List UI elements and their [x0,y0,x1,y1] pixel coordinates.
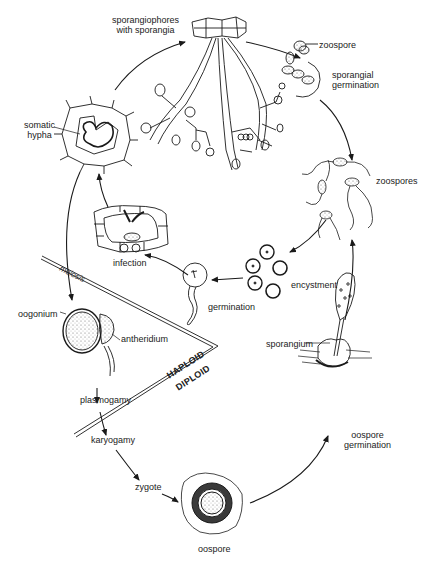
label-sporangiophores-line2: with sporangia [112,25,179,35]
cycle-arrows [67,42,354,503]
label-oospore-germ-line1: oospore [344,430,391,440]
label-somatic-line2: hypha [24,130,55,140]
label-sporangium: sporangium [266,339,313,349]
label-karyogamy: karyogamy [91,435,135,445]
arrow-zoospores-to-encystment [290,220,326,252]
oogonium-illustration [63,309,114,376]
arrow-sporangium-to-zoospores [345,240,353,320]
encystment-illustration [246,245,287,298]
label-zygote: zygote [135,482,162,492]
sporangial-germination-illustration [282,41,320,97]
sporangiophores-illustration [141,17,285,170]
label-sporangial-line1: sporangial [332,70,379,80]
label-sporangial-germination: sporangial germination [332,70,379,90]
arrow-oospore-to-germination [250,436,328,503]
arrow-encystment-to-germination [212,278,243,280]
label-zoospore: zoospore [319,40,356,50]
somatic-hypha-illustration [54,96,138,174]
label-oospore: oospore [198,544,231,554]
label-sporangiophores-line1: sporangiophores [112,15,179,25]
label-somatic-hypha: somatic hypha [24,120,55,140]
label-plasmogamy: plasmogamy [80,395,131,405]
label-sporangial-line2: germination [332,80,379,90]
label-zoospores: zoospores [376,176,418,186]
arrow-infection-to-hypha [99,174,108,207]
arrow-germination-to-zoospores [320,100,352,160]
arrow-zygote-to-oospore [162,494,178,502]
arrow-hypha-to-sporangiophores [115,42,185,90]
label-somatic-line1: somatic [24,120,55,130]
leader-lines [54,127,330,343]
arrow-karyogamy-to-zygote [116,450,139,480]
oospore-illustration [181,473,242,534]
label-sporangiophores: sporangiophores with sporangia [112,15,179,35]
label-encystment: encystment [291,280,337,290]
germinating-cyst-illustration [183,263,207,325]
label-infection: infection [113,258,147,268]
ploidy-boundary [41,256,218,437]
label-antheridium: antheridium [121,334,168,344]
label-oospore-germ-line2: germination [344,440,391,450]
infection-illustration [94,206,168,252]
zoospores-illustration [302,158,373,240]
label-germination: germination [208,302,255,312]
label-oogonium: oogonium [18,309,58,319]
arrow-germination-to-infection [145,255,188,275]
label-oospore-germination: oospore germination [344,430,391,450]
